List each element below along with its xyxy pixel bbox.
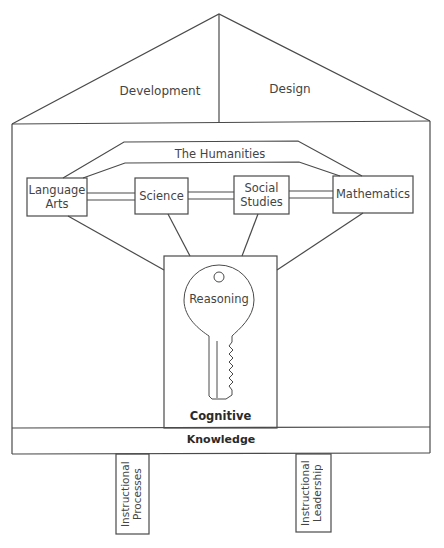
subject-mathematics: Mathematics — [333, 187, 413, 201]
pillar-label-processes: Instructional Processes — [119, 458, 147, 530]
key-box-label: Cognitive — [164, 409, 277, 423]
roof-label-design: Design — [250, 82, 330, 96]
subject-language-arts: Language Arts — [27, 183, 87, 211]
humanities-label: The Humanities — [160, 147, 280, 161]
key-icon — [184, 265, 254, 399]
roof-base — [12, 121, 430, 124]
pillar-label-leadership: Instructional Leadership — [299, 458, 329, 528]
key-head-label: Reasoning — [184, 292, 254, 306]
subject-science: Science — [135, 189, 188, 203]
foundation-label: Knowledge — [12, 433, 430, 447]
house-diagram — [0, 0, 444, 548]
roof-label-development: Development — [110, 84, 210, 98]
roof-outline — [12, 14, 430, 124]
subject-social-studies: Social Studies — [234, 181, 289, 209]
humanities-inner-line — [83, 162, 340, 178]
knowledge-bottom — [12, 453, 430, 454]
key-hole — [214, 272, 224, 282]
